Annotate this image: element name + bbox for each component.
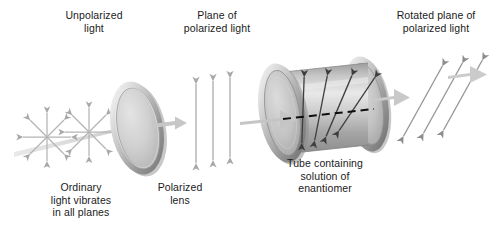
label-plane-of-polarized-light: Plane of polarized light	[160, 9, 274, 34]
label-unpolarized-light: Unpolarized light	[42, 9, 146, 34]
beam-arrow-exit	[448, 66, 487, 83]
unpolarized-light-starburst	[23, 113, 71, 161]
unpolarized-light-starburst-secondary	[65, 108, 113, 156]
label-rotated-plane-of-polarized-light: Rotated plane of polarized light	[378, 9, 494, 34]
label-tube-containing-enantiomer: Tube containing solution of enantiomer	[264, 157, 386, 195]
vertical-polarization-arrows	[196, 78, 230, 163]
polarized-lens-disc	[103, 76, 175, 181]
label-ordinary-light-vibrates: Ordinary light vibrates in all planes	[20, 181, 142, 219]
label-polarized-lens: Polarized lens	[138, 181, 222, 206]
optical-activity-diagram: Unpolarized light Plane of polarized lig…	[0, 0, 494, 231]
